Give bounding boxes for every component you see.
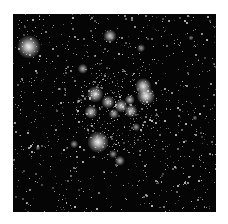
- faint-star: [31, 158, 32, 159]
- faint-star: [33, 31, 34, 32]
- faint-star: [156, 17, 157, 18]
- faint-star: [20, 113, 21, 114]
- faint-star: [200, 127, 201, 128]
- faint-star: [173, 186, 174, 187]
- faint-star: [160, 207, 161, 208]
- faint-star: [19, 28, 20, 29]
- faint-star: [76, 132, 77, 133]
- faint-star: [56, 109, 57, 110]
- faint-star: [123, 185, 124, 186]
- faint-star: [58, 139, 59, 140]
- faint-star: [20, 95, 21, 96]
- faint-star: [84, 85, 85, 86]
- faint-star: [86, 208, 87, 209]
- faint-star: [72, 114, 73, 115]
- faint-star: [107, 154, 108, 155]
- faint-star: [72, 77, 73, 78]
- faint-star: [119, 96, 121, 98]
- faint-star: [68, 41, 69, 42]
- faint-star: [13, 159, 15, 161]
- faint-star: [65, 92, 66, 93]
- faint-star: [169, 55, 170, 56]
- faint-star: [101, 60, 102, 61]
- faint-star: [63, 207, 64, 208]
- faint-star: [162, 94, 163, 95]
- faint-star: [107, 123, 108, 124]
- faint-star: [73, 136, 74, 137]
- faint-star: [119, 135, 120, 136]
- faint-star: [65, 70, 66, 71]
- faint-star: [80, 181, 81, 182]
- faint-star: [214, 105, 215, 106]
- faint-star: [58, 136, 59, 137]
- faint-star: [35, 119, 36, 120]
- faint-star: [87, 52, 88, 53]
- faint-star: [178, 100, 179, 101]
- faint-star: [181, 129, 183, 131]
- faint-star: [21, 146, 22, 147]
- faint-star: [15, 149, 16, 150]
- faint-star: [93, 176, 94, 177]
- faint-star: [65, 48, 66, 49]
- faint-star: [77, 162, 78, 163]
- faint-star: [28, 211, 29, 212]
- faint-star: [66, 68, 67, 69]
- faint-star: [71, 208, 72, 209]
- faint-star: [40, 155, 41, 156]
- faint-star: [129, 152, 130, 153]
- faint-star: [67, 147, 68, 148]
- faint-star: [30, 147, 31, 148]
- faint-star: [156, 140, 157, 141]
- bright-star: [88, 132, 109, 153]
- faint-star: [202, 143, 203, 144]
- faint-star: [56, 46, 57, 47]
- faint-star: [67, 180, 69, 182]
- faint-star: [76, 151, 77, 152]
- faint-star: [84, 211, 85, 212]
- faint-star: [130, 46, 131, 47]
- faint-star: [55, 68, 56, 69]
- faint-star: [179, 17, 181, 19]
- faint-star: [179, 196, 180, 197]
- faint-star: [47, 74, 48, 75]
- faint-star: [41, 44, 42, 45]
- faint-star: [191, 103, 192, 104]
- faint-star: [142, 127, 143, 128]
- faint-star: [36, 111, 37, 112]
- faint-star: [114, 143, 115, 144]
- faint-star: [214, 42, 215, 43]
- faint-star: [22, 67, 23, 68]
- faint-star: [32, 144, 33, 145]
- faint-star: [180, 117, 181, 118]
- faint-star: [150, 117, 151, 118]
- faint-star: [41, 80, 42, 81]
- faint-star: [81, 95, 82, 96]
- faint-star: [164, 31, 165, 32]
- faint-star: [55, 125, 56, 126]
- faint-star: [178, 102, 179, 103]
- faint-star: [162, 63, 163, 64]
- faint-star: [66, 157, 67, 158]
- faint-star: [165, 146, 166, 147]
- faint-star: [160, 161, 161, 162]
- faint-star: [186, 85, 188, 87]
- faint-star: [157, 182, 159, 184]
- faint-star: [128, 135, 129, 136]
- faint-star: [117, 130, 118, 131]
- faint-star: [15, 196, 17, 198]
- faint-star: [147, 126, 148, 127]
- faint-star: [137, 193, 138, 194]
- faint-star: [97, 120, 98, 121]
- faint-star: [147, 38, 149, 40]
- faint-star: [50, 169, 51, 170]
- faint-star: [180, 43, 181, 44]
- faint-star: [73, 53, 74, 54]
- faint-star: [188, 74, 189, 75]
- faint-star: [143, 125, 144, 126]
- faint-star: [27, 211, 28, 212]
- faint-star: [198, 60, 199, 61]
- faint-star: [198, 197, 199, 198]
- faint-star: [147, 108, 148, 109]
- faint-star: [176, 191, 178, 193]
- faint-star: [81, 102, 82, 103]
